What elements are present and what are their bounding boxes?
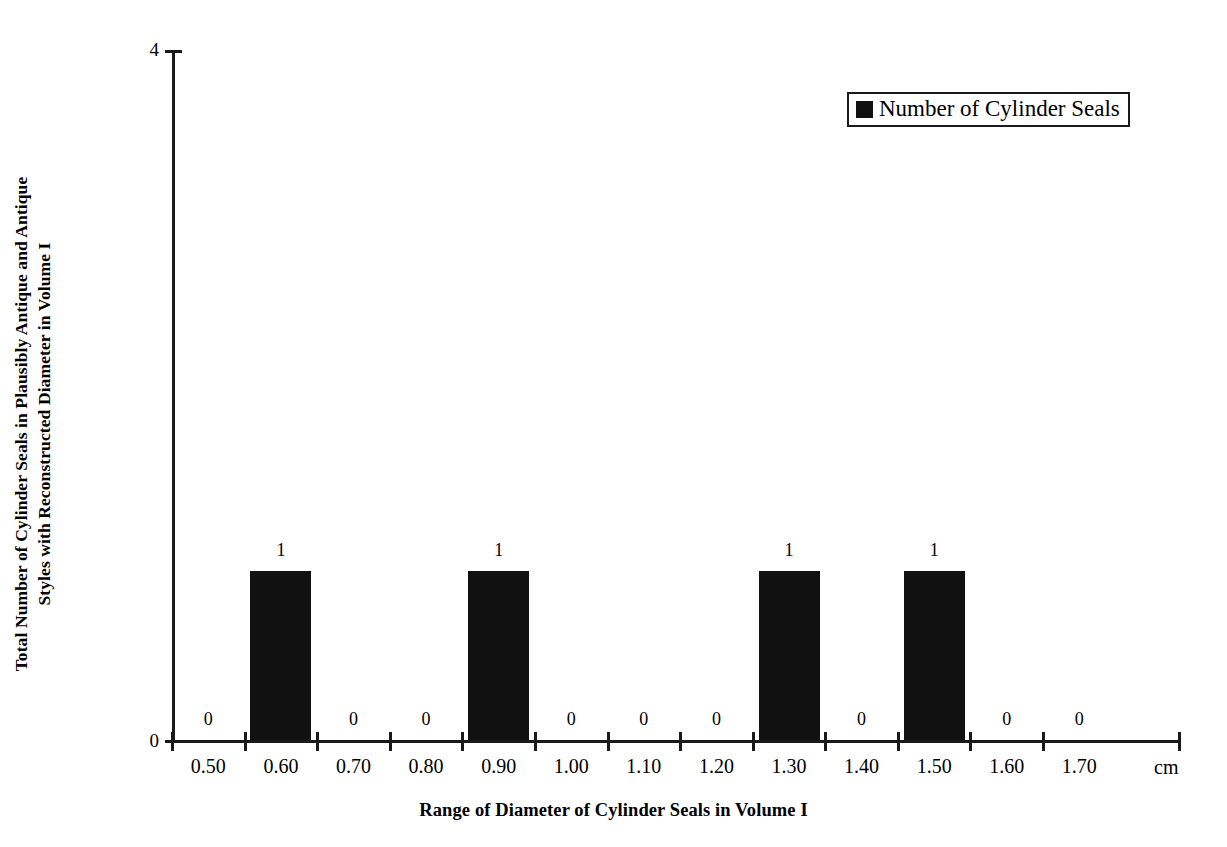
x-axis-tick-label: 1.20 — [699, 756, 734, 776]
y-axis-tick-label-max: 4 — [150, 40, 160, 59]
x-axis-tick-end — [1178, 732, 1181, 751]
x-axis-tick — [244, 732, 247, 751]
bar-value-label: 0 — [204, 710, 213, 728]
x-axis-tick — [679, 732, 682, 751]
bar-chart: Total Number of Cylinder Seals in Plausi… — [0, 0, 1227, 847]
bar-value-label: 0 — [1002, 710, 1011, 728]
x-axis-tick-label: 0.60 — [263, 756, 298, 776]
x-axis-tick-label: 1.00 — [554, 756, 589, 776]
y-axis-tick-top — [165, 50, 182, 53]
y-axis-title: Total Number of Cylinder Seals in Plausi… — [0, 0, 62, 847]
x-axis-tick-label: 0.50 — [191, 756, 226, 776]
x-axis-tick-label: 1.30 — [772, 756, 807, 776]
bar-value-label: 1 — [930, 541, 939, 559]
y-axis-title-line-2: Styles with Reconstructed Diameter in Vo… — [36, 242, 54, 605]
bar — [759, 571, 820, 740]
bar-value-label: 0 — [567, 710, 576, 728]
x-axis-tick — [171, 732, 174, 751]
x-axis-tick-label: 0.90 — [481, 756, 516, 776]
bar — [468, 571, 529, 740]
bar-value-label: 0 — [422, 710, 431, 728]
y-axis-title-line-1: Total Number of Cylinder Seals in Plausi… — [13, 176, 31, 671]
x-axis-tick — [316, 732, 319, 751]
x-axis-line — [172, 740, 1181, 743]
x-axis-tick — [534, 732, 537, 751]
x-axis-tick — [1042, 732, 1045, 751]
bar-value-label: 0 — [857, 710, 866, 728]
x-axis-tick — [752, 732, 755, 751]
x-axis-tick — [389, 732, 392, 751]
plot-area: 4 0 0.500.600.700.800.901.001.101.201.30… — [172, 50, 1181, 743]
legend: Number of Cylinder Seals — [847, 92, 1130, 127]
x-axis-tick-label: 1.40 — [844, 756, 879, 776]
x-axis-tick — [607, 732, 610, 751]
x-axis-tick — [969, 732, 972, 751]
bar-value-label: 0 — [712, 710, 721, 728]
x-axis-tick-label: 1.70 — [1062, 756, 1097, 776]
bar — [904, 571, 965, 740]
bar-value-label: 1 — [785, 541, 794, 559]
bar-value-label: 0 — [639, 710, 648, 728]
x-axis-tick-label: 1.10 — [626, 756, 661, 776]
x-axis-tick-label: 1.60 — [989, 756, 1024, 776]
bar-value-label: 0 — [1075, 710, 1084, 728]
bar-value-label: 0 — [349, 710, 358, 728]
x-axis-tick — [824, 732, 827, 751]
x-axis-tick-label: 1.50 — [917, 756, 952, 776]
x-axis-tick — [461, 732, 464, 751]
legend-swatch-icon — [856, 101, 873, 118]
x-axis-unit-label: cm — [1154, 757, 1178, 777]
y-axis-tick-label-min: 0 — [150, 731, 160, 750]
y-axis-line — [172, 50, 175, 743]
x-axis-tick-label: 0.70 — [336, 756, 371, 776]
bar — [250, 571, 311, 740]
x-axis-tick-label: 0.80 — [409, 756, 444, 776]
x-axis-tick — [897, 732, 900, 751]
bar-value-label: 1 — [276, 541, 285, 559]
legend-label: Number of Cylinder Seals — [879, 97, 1120, 121]
x-axis-title: Range of Diameter of Cylinder Seals in V… — [0, 800, 1227, 821]
bar-value-label: 1 — [494, 541, 503, 559]
